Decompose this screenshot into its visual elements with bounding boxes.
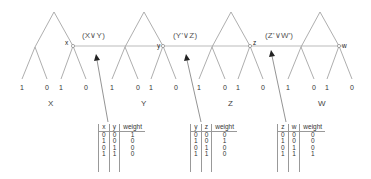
leaf-label: 0	[312, 84, 316, 91]
leaf-label: 0	[350, 84, 354, 91]
table-header: y	[191, 124, 202, 131]
leaf-label: 0	[261, 84, 265, 91]
table-header: x	[99, 124, 110, 131]
table-header: weight	[120, 124, 145, 131]
clause-label-1: (X∨Y)	[82, 32, 105, 40]
leaf-label: 0	[136, 84, 140, 91]
node-z	[248, 44, 251, 47]
clause-label-3: (Z'∨W')	[265, 32, 293, 40]
leaf-label: 1	[59, 84, 63, 91]
leaf-label: 0	[174, 84, 178, 91]
arrow-3	[269, 50, 286, 122]
leaf-label: 0	[223, 84, 227, 91]
tree-y	[112, 12, 176, 79]
tree-name-w: W	[318, 100, 326, 108]
node-label-y: y	[157, 43, 160, 50]
node-label-x: x	[65, 40, 68, 47]
weight-table-xy: x y weight 0 0 1 1 0 0 0 1 0 1 1 0	[98, 124, 145, 172]
node-w	[337, 44, 340, 47]
leaf-label: 0	[45, 84, 49, 91]
leaf-label: 1	[149, 84, 153, 91]
node-y	[161, 44, 164, 47]
leaf-label: 1	[197, 84, 201, 91]
node-x	[71, 44, 74, 47]
leaf-label: 1	[110, 84, 114, 91]
tree-name-z: Z	[228, 100, 233, 108]
leaf-label: 1	[286, 84, 290, 91]
arrow-1	[94, 54, 108, 122]
table-header: weight	[212, 124, 237, 131]
table-header: z	[201, 124, 212, 131]
clause-label-2: (Y'∨Z)	[173, 32, 197, 40]
table-header: weight	[300, 124, 325, 131]
leaf-label: 1	[20, 84, 24, 91]
node-label-w: w	[342, 43, 347, 50]
tree-name-x: X	[48, 100, 53, 108]
leaf-label: 0	[84, 84, 88, 91]
leaf-label: 1	[325, 84, 329, 91]
table-header: w	[288, 124, 300, 131]
table-header: z	[278, 124, 289, 131]
weight-table-yz: y z weight 0 0 0 1 0 1 0 1 0 1 1 0	[190, 124, 237, 172]
weight-table-zw: z w weight 0 0 0 1 0 0 0 1 0 1 1 1	[277, 124, 325, 172]
leaf-label: 1	[236, 84, 240, 91]
node-label-z: z	[253, 40, 256, 47]
tree-x	[22, 12, 86, 79]
tree-name-y: Y	[141, 100, 146, 108]
table-header: y	[109, 124, 120, 131]
